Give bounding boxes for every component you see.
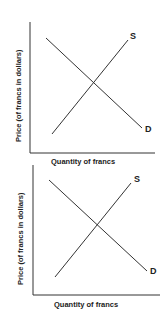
y-axis-label: Price (of francs in dollars)	[14, 49, 23, 142]
demand-curve	[49, 180, 147, 271]
demand-label: D	[145, 124, 152, 134]
charts-canvas: S D Price (of francs in dollars) Quantit…	[0, 0, 164, 315]
x-axis-label: Quantity of francs	[54, 300, 118, 309]
x-axis-label: Quantity of francs	[51, 157, 115, 166]
chart-bottom: S D Price (of francs in dollars) Quantit…	[16, 165, 160, 309]
supply-label: S	[134, 174, 140, 184]
chart-top: S D Price (of francs in dollars) Quantit…	[14, 22, 155, 166]
demand-curve	[46, 38, 142, 128]
supply-label: S	[130, 31, 136, 41]
supply-curve	[55, 183, 131, 277]
demand-label: D	[150, 266, 157, 276]
y-axis-label: Price (of francs in dollars)	[16, 192, 25, 285]
